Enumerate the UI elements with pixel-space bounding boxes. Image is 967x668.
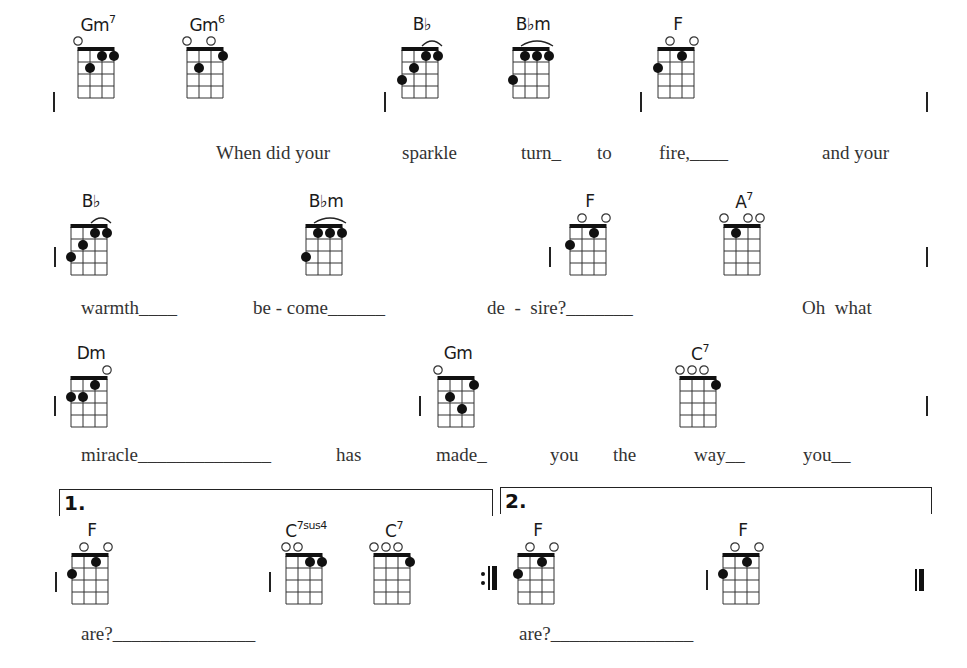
lyric-word: miracle______________ <box>81 444 271 466</box>
barline <box>54 247 56 267</box>
chord-name: B♭m <box>296 191 356 211</box>
fretboard-grid <box>560 213 620 293</box>
lyric-word: de - sire?_______ <box>487 297 633 319</box>
volta-bracket <box>59 489 493 516</box>
chord-diagram: C7sus4 <box>276 520 336 620</box>
barline <box>54 396 56 416</box>
lyric-word: are?_______________ <box>519 623 693 645</box>
lyric-word: the <box>613 444 636 466</box>
chord-name: F <box>508 520 568 540</box>
chord-name: C7sus4 <box>276 520 336 541</box>
volta-label: 1. <box>64 491 86 515</box>
volta-bracket <box>500 487 932 514</box>
fretboard-grid <box>296 213 356 293</box>
fretboard-grid <box>648 36 708 116</box>
lyric-word: be - come______ <box>253 297 385 319</box>
chord-diagram: Gm <box>428 343 488 443</box>
lyric-word: you__ <box>803 444 851 466</box>
chord-name: C7 <box>670 343 730 364</box>
lyric-word: has <box>336 444 361 466</box>
barline <box>53 92 55 112</box>
fretboard-grid <box>62 542 122 622</box>
chord-name: F <box>713 520 773 540</box>
chord-diagram: F <box>713 520 773 620</box>
chord-diagram: A7 <box>714 191 774 291</box>
chord-diagram: F <box>508 520 568 620</box>
lyric-word: sparkle <box>402 142 457 164</box>
chord-name: B♭m <box>503 14 563 34</box>
fretboard-grid <box>276 542 336 622</box>
lyric-word: Oh what <box>802 297 872 319</box>
chord-name: Gm7 <box>68 14 128 35</box>
barline <box>926 92 928 112</box>
chord-name: F <box>62 520 122 540</box>
fretboard-grid <box>714 213 774 293</box>
chord-diagram: C7 <box>364 520 424 620</box>
chord-name: C7 <box>364 520 424 541</box>
fretboard-grid <box>670 365 730 445</box>
chord-diagram: F <box>560 191 620 291</box>
chord-name: Dm <box>61 343 121 363</box>
chord-diagram: B♭ <box>392 14 452 114</box>
fretboard-grid <box>177 36 237 116</box>
barline <box>926 247 928 267</box>
fretboard-grid <box>61 213 121 293</box>
fretboard-grid <box>68 36 128 116</box>
chord-name: F <box>560 191 620 211</box>
fretboard-grid <box>503 36 563 116</box>
fretboard-grid <box>508 542 568 622</box>
chord-diagram: B♭m <box>503 14 563 114</box>
barline <box>269 572 271 592</box>
chord-diagram: B♭m <box>296 191 356 291</box>
barline <box>926 396 928 416</box>
volta-label: 2. <box>505 489 527 513</box>
chord-name: A7 <box>714 191 774 212</box>
chord-diagram: Gm7 <box>68 14 128 114</box>
chord-name: B♭ <box>392 14 452 34</box>
chord-diagram: Gm6 <box>177 14 237 114</box>
lyric-word: made_ <box>436 444 487 466</box>
chord-diagram: F <box>648 14 708 114</box>
lyric-word: When did your <box>216 142 330 164</box>
fretboard-grid <box>713 542 773 622</box>
chord-diagram: Dm <box>61 343 121 443</box>
chord-name: F <box>648 14 708 34</box>
barline <box>549 247 551 267</box>
lyric-word: are?_______________ <box>81 623 255 645</box>
barline <box>419 396 421 416</box>
lyric-word: you <box>550 444 579 466</box>
barline <box>384 92 386 112</box>
fretboard-grid <box>61 365 121 445</box>
lyric-word: and your <box>822 142 889 164</box>
fretboard-grid <box>428 365 488 445</box>
chord-name: B♭ <box>61 191 121 211</box>
chord-name: Gm <box>428 343 488 363</box>
lyric-word: turn_ <box>521 142 561 164</box>
chord-diagram: F <box>62 520 122 620</box>
fretboard-grid <box>392 36 452 116</box>
barline <box>55 572 57 592</box>
lyric-word: warmth____ <box>81 297 177 319</box>
lyric-word: fire,____ <box>659 142 728 164</box>
barline <box>706 570 708 590</box>
lyric-word: way__ <box>694 444 745 466</box>
chord-diagram: B♭ <box>61 191 121 291</box>
barline <box>640 92 642 112</box>
chord-name: Gm6 <box>177 14 237 35</box>
lyric-word: to <box>597 142 612 164</box>
chord-diagram: C7 <box>670 343 730 443</box>
fretboard-grid <box>364 542 424 622</box>
